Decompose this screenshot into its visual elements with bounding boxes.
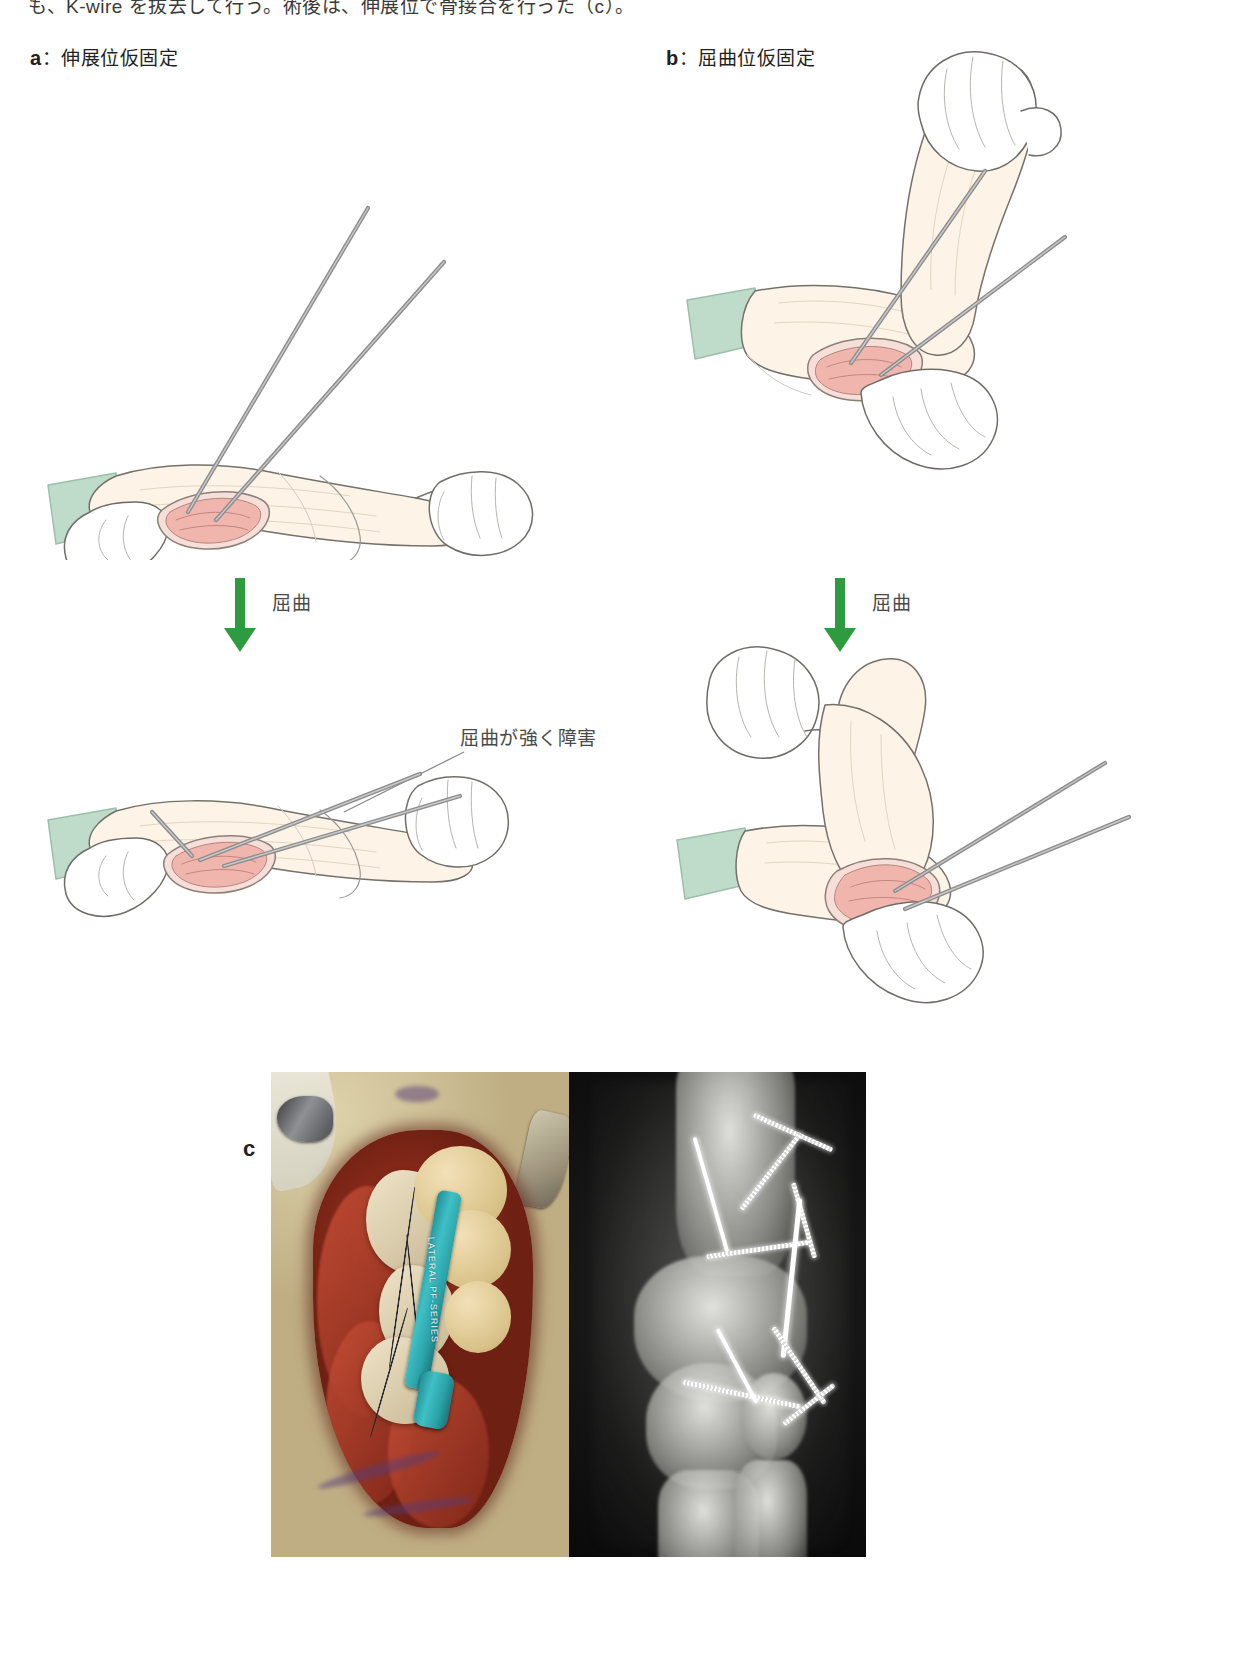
illustration-a-extension-top	[20, 190, 580, 560]
clinical-photo: LATERAL PF-SERIES	[271, 1072, 569, 1557]
illustration-a-extension-bottom	[20, 700, 580, 1060]
flexion-arrow-left-label: 屈曲	[272, 588, 311, 615]
panel-title-a: 伸展位仮固定	[61, 48, 178, 69]
flexion-arrow-right-label: 屈曲	[872, 588, 911, 615]
illustration-b-flexion-top	[655, 45, 1215, 565]
illustration-b-flexion-bottom	[655, 635, 1215, 1055]
flexion-arrow-left	[218, 578, 262, 654]
photo-strip-c: LATERAL PF-SERIES	[271, 1072, 866, 1557]
panel-sep-a: ：	[42, 48, 62, 69]
panel-letter-a: a	[30, 47, 42, 69]
xray-photo	[569, 1072, 866, 1557]
panel-letter-c: c	[243, 1136, 255, 1162]
instrument-label: LATERAL PF-SERIES	[426, 1237, 440, 1343]
figure-caption-top: も、K-wire を抜去して行う。術後は、伸展位で骨接合を行った（c）。	[28, 0, 635, 18]
panel-label-a: a：伸展位仮固定	[30, 43, 178, 70]
